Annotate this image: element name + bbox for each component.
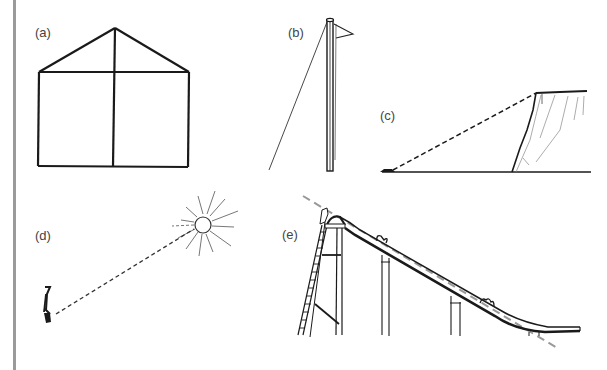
panel-label-c: (c)	[380, 108, 395, 123]
slide-drawing	[298, 196, 580, 349]
panel-label-d: (d)	[35, 228, 51, 243]
panel-label-e: (e)	[282, 227, 298, 242]
flagpole-drawing	[269, 18, 353, 171]
cliff-drawing	[380, 91, 591, 172]
house-frame-drawing	[38, 28, 189, 167]
diagram-canvas	[0, 0, 607, 370]
panel-label-b: (b)	[288, 25, 304, 40]
sun-drawing	[172, 191, 238, 256]
sightline-to-sun	[56, 229, 194, 314]
person-observer	[44, 287, 51, 323]
panel-label-a: (a)	[35, 25, 51, 40]
